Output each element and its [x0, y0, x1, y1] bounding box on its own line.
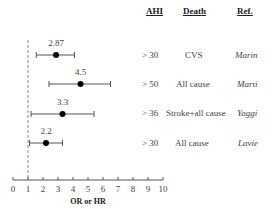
row-2-ahi: > 50 [142, 79, 158, 89]
x-axis-label: OR or HR [70, 197, 105, 206]
estimate-point [78, 81, 84, 87]
row-2-death: All cause [176, 79, 210, 89]
header-death: Death [183, 6, 206, 16]
row-3-death: Stroke+all cause [166, 108, 226, 118]
row-4-ref: Lavie [238, 138, 258, 148]
x-tick-label: 2 [41, 184, 46, 194]
row-1-ahi: > 30 [142, 50, 158, 60]
row-1-ref: Marin [235, 50, 258, 60]
row-2-ref: Marti [237, 79, 258, 89]
header-ref: Ref. [237, 6, 253, 16]
x-tick-label: 8 [131, 184, 136, 194]
row-1-death: CVS [185, 50, 203, 60]
estimate-label: 2.87 [48, 38, 64, 48]
x-tick-label: 6 [101, 184, 106, 194]
x-tick-label: 3 [56, 184, 61, 194]
row-4-death: All cause [175, 138, 209, 148]
x-tick-label: 5 [86, 184, 91, 194]
x-tick-label: 1 [26, 184, 31, 194]
estimate-label: 4.5 [75, 67, 86, 77]
estimate-point [43, 140, 49, 146]
estimate-point [60, 111, 66, 117]
row-4-ahi: > 30 [142, 138, 158, 148]
header-ahi: AHI [146, 6, 163, 16]
estimate-point [53, 52, 59, 58]
forest-plot [0, 0, 272, 209]
x-tick-label: 10 [159, 184, 168, 194]
estimate-label: 3.3 [57, 97, 68, 107]
x-tick-label: 7 [116, 184, 121, 194]
x-tick-label: 4 [71, 184, 76, 194]
x-tick-label: 9 [146, 184, 151, 194]
x-tick-label: 0 [11, 184, 16, 194]
row-3-ahi: > 36 [142, 108, 158, 118]
row-3-ref: Yaggi [237, 108, 257, 118]
estimate-label: 2.2 [40, 126, 51, 136]
